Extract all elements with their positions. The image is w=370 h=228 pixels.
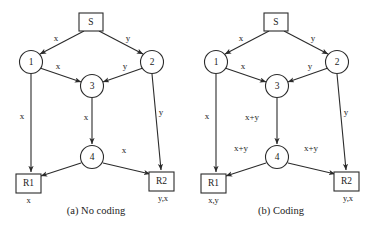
edge-node4-to-r1 [41,163,81,176]
butterfly-network-figure: S 1 2 3 4 R1 R2 x y x y x x y x x [0,0,370,228]
node-4-label: 4 [275,152,280,162]
edge-label-source-to-node2: y [311,33,316,43]
edge-label-node1-to-r1: x [205,111,210,121]
edge-label-node2-to-r2: y [159,107,164,117]
node-r2-label: R2 [156,176,167,186]
edge-label-node4-to-r1: x+y [234,143,249,153]
edge-label-node2-to-node3: y [123,61,128,71]
panel-no-coding: S 1 2 3 4 R1 R2 x y x y x x y x x [16,13,174,217]
edge-source-to-node2 [284,31,328,54]
node-3-label: 3 [275,81,280,91]
panel-coding: S 1 2 3 4 R1 R2 x y x y x x+y y x+y x+y [201,13,359,217]
edge-label-node1-to-node3: x [241,61,246,71]
edge-node1-to-node3 [40,68,81,82]
edge-node2-to-r2 [337,74,346,170]
received-r1: x [26,195,31,205]
network-coding-diagram: S 1 2 3 4 R1 R2 x y x y x x y x x [0,0,370,228]
edge-node4-to-r1 [226,163,266,176]
node-r1-label: R1 [208,178,219,188]
received-r2: y,x [343,193,354,203]
panel-caption-coding: (b) Coding [258,205,305,217]
edge-node4-to-r2 [103,163,150,174]
edge-label-source-to-node1: x [54,33,59,43]
received-r2: y,x [158,193,169,203]
node-r2-label: R2 [341,176,352,186]
edge-label-node1-to-r1: x [20,111,25,121]
edge-node2-to-r2 [152,74,161,170]
edge-source-to-node1 [40,31,84,54]
node-1-label: 1 [29,57,34,67]
node-2-label: 2 [335,57,340,67]
node-1-label: 1 [214,57,219,67]
received-r1: x,y [208,195,219,205]
edge-label-node4-to-r2: x+y [304,143,319,153]
edge-label-source-to-node2: y [126,33,131,43]
node-r1-label: R1 [23,178,34,188]
node-3-label: 3 [90,81,95,91]
edge-source-to-node2 [99,31,143,54]
edge-label-source-to-node1: x [239,33,244,43]
edge-label-node2-to-node3: y [308,61,313,71]
node-source-label: S [273,17,278,27]
edge-label-node4-to-r2: x [122,145,127,155]
edge-label-node3-to-node4: x+y [245,112,260,122]
edge-source-to-node1 [225,31,269,54]
panel-caption-no-coding: (a) No coding [67,205,126,217]
node-source-label: S [88,17,93,27]
edge-node1-to-node3 [225,68,266,82]
edge-label-node1-to-node3: x [56,61,61,71]
node-4-label: 4 [90,152,95,162]
edge-node4-to-r2 [288,163,335,174]
edge-label-node2-to-r2: y [344,107,349,117]
node-2-label: 2 [150,57,155,67]
edge-label-node3-to-node4: x [84,112,89,122]
